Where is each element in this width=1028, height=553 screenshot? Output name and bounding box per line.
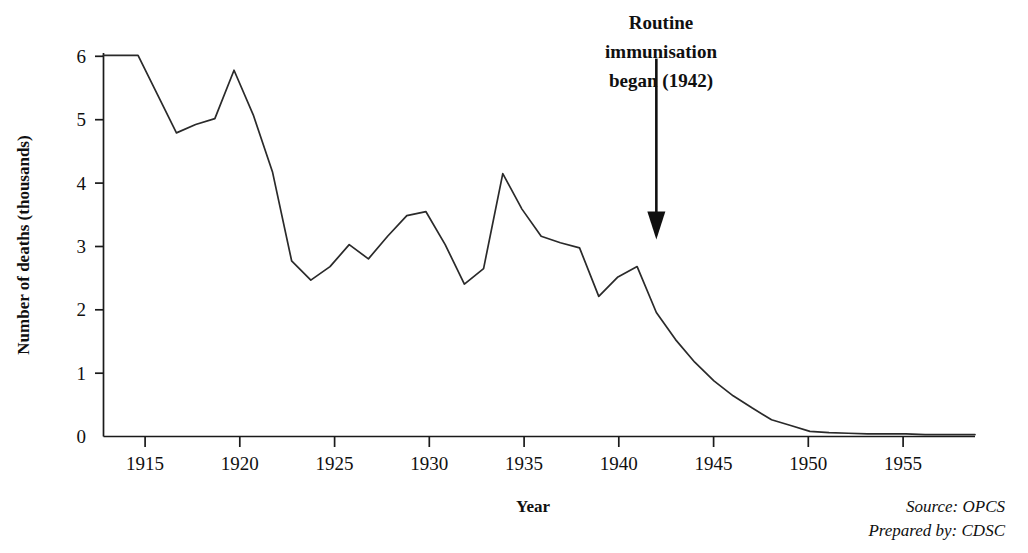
x-tick-label-1920: 1920 [221, 453, 259, 474]
x-axis-ticks [145, 437, 903, 448]
y-axis-ticks [95, 56, 104, 373]
x-axis-tick-labels: 1915 1920 1925 1930 1935 1940 1945 1950 … [126, 453, 922, 474]
y-tick-label-2: 2 [77, 299, 87, 320]
prepared-by-key: Prepared by: [867, 521, 957, 540]
source-line: Source: OPCS [906, 497, 1006, 516]
x-tick-label-1945: 1945 [695, 453, 733, 474]
y-axis-title: Number of deaths (thousands) [14, 135, 33, 354]
annotation-line-2: immunisation [605, 41, 717, 62]
y-tick-label-1: 1 [77, 363, 87, 384]
chart-figure: 6 5 4 3 2 1 0 1915 1920 1925 1930 1935 [0, 0, 1028, 553]
annotation-line-3: began (1942) [609, 70, 713, 92]
prepared-by-line: Prepared by: CDSC [867, 521, 1005, 540]
x-tick-label-1915: 1915 [126, 453, 164, 474]
line-chart-plot: 6 5 4 3 2 1 0 1915 1920 1925 1930 1935 [0, 0, 1028, 553]
annotation-line-1: Routine [629, 12, 693, 33]
prepared-by-value: CDSC [957, 521, 1005, 540]
data-series-line [104, 55, 976, 434]
source-key: Source: [906, 497, 958, 516]
x-tick-label-1930: 1930 [410, 453, 448, 474]
y-tick-label-0: 0 [77, 426, 87, 447]
x-tick-label-1955: 1955 [884, 453, 922, 474]
source-footnotes: Source: OPCS Prepared by: CDSC [867, 497, 1005, 540]
y-axis-tick-labels: 6 5 4 3 2 1 0 [77, 46, 87, 447]
source-value: OPCS [958, 497, 1005, 516]
y-tick-label-4: 4 [77, 173, 87, 194]
x-tick-label-1925: 1925 [316, 453, 354, 474]
immunisation-annotation: Routine immunisation began (1942) [605, 12, 717, 239]
y-tick-label-6: 6 [77, 46, 87, 67]
x-tick-label-1950: 1950 [789, 453, 827, 474]
y-tick-label-3: 3 [77, 236, 87, 257]
x-tick-label-1940: 1940 [600, 453, 638, 474]
x-axis-title: Year [516, 497, 550, 516]
x-tick-label-1935: 1935 [505, 453, 543, 474]
annotation-arrow-head [647, 211, 665, 239]
y-tick-label-5: 5 [77, 109, 87, 130]
